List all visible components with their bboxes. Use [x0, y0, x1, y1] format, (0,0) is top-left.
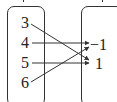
mapping-arrows [0, 0, 117, 102]
mapping-diagram: 3 4 5 6 −1 1 [0, 0, 117, 102]
arrow-3-to-1 [31, 24, 89, 60]
arrow-6-to-neg1 [31, 47, 89, 82]
